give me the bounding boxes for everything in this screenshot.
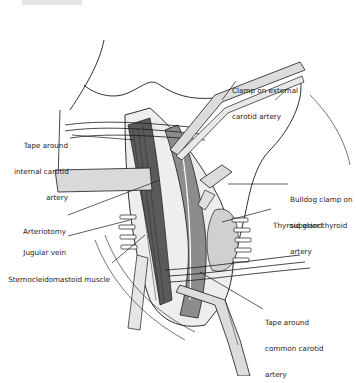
label-line: artery xyxy=(265,371,324,380)
label-clamp-external: Clamp on external carotid artery xyxy=(232,70,298,139)
label-tape-common: Tape around common carotid artery xyxy=(265,302,324,383)
label-line: Bulldog clamp on xyxy=(290,196,352,205)
label-line: carotid artery xyxy=(232,113,298,122)
label-line: Clamp on external xyxy=(232,87,298,96)
label-line: Jugular vein xyxy=(10,249,66,258)
label-line: Tape around xyxy=(14,142,68,151)
label-line: Tape around xyxy=(265,319,324,328)
label-thyroid-gland: Thyroid gland xyxy=(273,205,322,248)
label-tape-internal: Tape around internal carotid artery xyxy=(14,125,68,220)
label-line: common carotid xyxy=(265,345,324,354)
label-line: artery xyxy=(14,194,68,203)
label-line: artery xyxy=(290,248,352,257)
label-sternocleidomastoid: Sternocleidomastoid muscle xyxy=(4,259,110,302)
label-line: Sternocleidomastoid muscle xyxy=(4,276,110,285)
label-line: internal carotid xyxy=(14,168,68,177)
label-line: Thyroid gland xyxy=(273,222,322,231)
